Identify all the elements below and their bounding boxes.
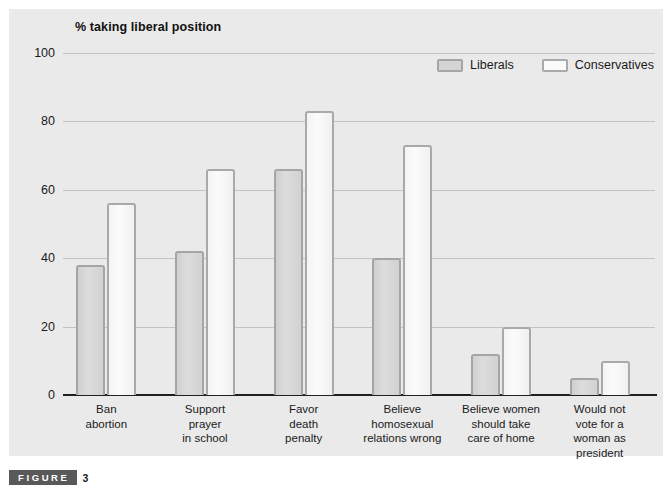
x-axis-category-line: Believe <box>353 402 452 417</box>
legend-label: Liberals <box>470 58 514 72</box>
y-axis-tick-label: 80 <box>9 114 55 128</box>
x-axis-category-line: should take <box>452 417 551 432</box>
x-axis-category-line: Ban <box>57 402 156 417</box>
figure-root: % taking liberal position 020406080100 B… <box>0 0 672 492</box>
bars-layer <box>63 53 655 395</box>
x-axis-category-line: Support <box>156 402 255 417</box>
legend-entry-conservatives[interactable]: Conservatives <box>542 58 654 72</box>
chart-title: % taking liberal position <box>75 20 221 34</box>
x-axis-category-label: Would notvote for awoman aspresident <box>550 402 649 460</box>
bar-conservatives-2[interactable] <box>206 169 235 395</box>
x-axis-category-line: Believe women <box>452 402 551 417</box>
y-axis-tick-label: 0 <box>9 388 55 402</box>
y-axis: 020406080100 <box>0 0 55 492</box>
x-axis-category-line: Favor <box>254 402 353 417</box>
x-axis-category-line: abortion <box>57 417 156 432</box>
figure-caption-word: FIGURE <box>9 470 77 485</box>
bar-conservatives-1[interactable] <box>107 203 136 395</box>
y-axis-tick-label: 100 <box>9 46 55 60</box>
x-axis-category-line: death <box>254 417 353 432</box>
bar-liberals-1[interactable] <box>76 265 105 395</box>
y-axis-tick-label: 60 <box>9 183 55 197</box>
x-axis-category-line: Would not <box>550 402 649 417</box>
y-axis-tick-label: 40 <box>9 251 55 265</box>
x-axis-category-line: relations wrong <box>353 431 452 446</box>
legend-swatch-icon <box>542 59 568 72</box>
figure-caption-number: 3 <box>77 470 89 485</box>
bar-liberals-2[interactable] <box>175 251 204 395</box>
legend-label: Conservatives <box>575 58 654 72</box>
bar-conservatives-3[interactable] <box>305 111 334 395</box>
x-axis-category-line: president <box>550 446 649 461</box>
bar-conservatives-5[interactable] <box>502 327 531 395</box>
x-axis-category-label: Banabortion <box>57 402 156 431</box>
bar-liberals-6[interactable] <box>570 378 599 395</box>
x-axis-category-label: Believehomosexualrelations wrong <box>353 402 452 446</box>
x-axis-category-line: care of home <box>452 431 551 446</box>
x-axis-category-label: Supportprayerin school <box>156 402 255 446</box>
x-axis-category-label: Favordeathpenalty <box>254 402 353 446</box>
x-axis-category-line: in school <box>156 431 255 446</box>
legend-swatch-icon <box>437 59 463 72</box>
x-axis-category-line: homosexual <box>353 417 452 432</box>
bar-liberals-4[interactable] <box>372 258 401 395</box>
x-axis-category-line: vote for a <box>550 417 649 432</box>
legend-entry-liberals[interactable]: Liberals <box>437 58 514 72</box>
bar-conservatives-6[interactable] <box>601 361 630 395</box>
chart-legend: LiberalsConservatives <box>437 58 654 72</box>
x-axis-category-line: prayer <box>156 417 255 432</box>
bar-conservatives-4[interactable] <box>403 145 432 395</box>
bar-liberals-3[interactable] <box>274 169 303 395</box>
figure-caption: FIGURE 3 <box>9 470 88 485</box>
bar-liberals-5[interactable] <box>471 354 500 395</box>
x-axis-category-line: penalty <box>254 431 353 446</box>
y-axis-tick-label: 20 <box>9 320 55 334</box>
x-axis-category-label: Believe womenshould takecare of home <box>452 402 551 446</box>
x-axis-category-line: woman as <box>550 431 649 446</box>
